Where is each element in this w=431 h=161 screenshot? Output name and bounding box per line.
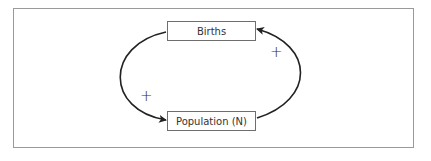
node-population: Population (N): [167, 111, 256, 131]
arrow-births-to-population: [120, 32, 166, 120]
polarity-population-to-births: +: [270, 45, 283, 60]
node-births: Births: [167, 21, 256, 41]
node-population-label: Population (N): [176, 116, 247, 127]
node-births-label: Births: [197, 26, 226, 37]
polarity-births-to-population: +: [140, 89, 153, 104]
